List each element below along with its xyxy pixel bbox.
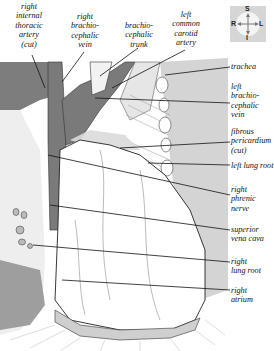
label-line: superior <box>231 225 264 234</box>
label-line: left <box>231 82 259 91</box>
label-line: left <box>164 10 208 19</box>
label-line: right <box>62 12 108 21</box>
label-superior-vena-cava: superior vena cava <box>231 225 264 244</box>
label-line: trachea <box>231 62 256 71</box>
label-right-internal-thoracic-artery: right internal thoracic artery (cut) <box>8 2 50 49</box>
label-line: pericardium <box>231 136 271 145</box>
label-left-common-carotid-artery: left common carotid artery <box>164 10 208 48</box>
left-lower-dark-region <box>0 260 45 330</box>
label-line: right <box>8 2 50 11</box>
label-line: brachio- <box>62 21 108 30</box>
label-right-brachiocephalic-vein: right brachio- cephalic vein <box>62 12 108 50</box>
label-left-lung-root: left lung root <box>231 161 273 170</box>
label-line: trunk <box>118 40 160 49</box>
label-line: cephalic <box>62 31 108 40</box>
label-right-atrium: right atrium <box>231 286 253 305</box>
orientation-compass: S I R L <box>230 6 266 42</box>
label-right-phrenic-nerve: right phrenic nerve <box>231 185 256 213</box>
compass-right: R <box>231 20 236 27</box>
label-line: common <box>164 19 208 28</box>
label-line: right <box>231 286 253 295</box>
label-line: fibrous <box>231 127 271 136</box>
label-line: atrium <box>231 295 253 304</box>
label-line: brachio- <box>231 91 259 100</box>
label-line: cephalic <box>231 101 259 110</box>
compass-superior: S <box>245 5 250 12</box>
label-line: cephalic <box>118 30 160 39</box>
label-line: (cut) <box>8 40 50 49</box>
label-line: right <box>231 257 261 266</box>
label-line: vena cava <box>231 234 264 243</box>
label-trachea: trachea <box>231 62 256 71</box>
label-line: nerve <box>231 204 256 213</box>
label-line: right <box>231 185 256 194</box>
label-right-lung-root: right lung root <box>231 257 261 276</box>
label-line: vein <box>231 110 259 119</box>
label-line: lung root <box>231 266 261 275</box>
label-line: left lung root <box>231 161 273 170</box>
compass-inferior: I <box>246 34 248 41</box>
label-line: carotid <box>164 29 208 38</box>
label-brachiocephalic-trunk: brachio- cephalic trunk <box>118 21 160 49</box>
label-line: vein <box>62 40 108 49</box>
label-line: thoracic <box>8 21 50 30</box>
label-line: artery <box>164 38 208 47</box>
label-line: internal <box>8 11 50 20</box>
label-line: phrenic <box>231 194 256 203</box>
label-line: brachio- <box>118 21 160 30</box>
label-line: (cut) <box>231 146 271 155</box>
label-fibrous-pericardium: fibrous pericardium (cut) <box>231 127 271 155</box>
compass-left: L <box>259 20 263 27</box>
label-left-brachiocephalic-vein: left brachio- cephalic vein <box>231 82 259 120</box>
label-line: artery <box>8 30 50 39</box>
